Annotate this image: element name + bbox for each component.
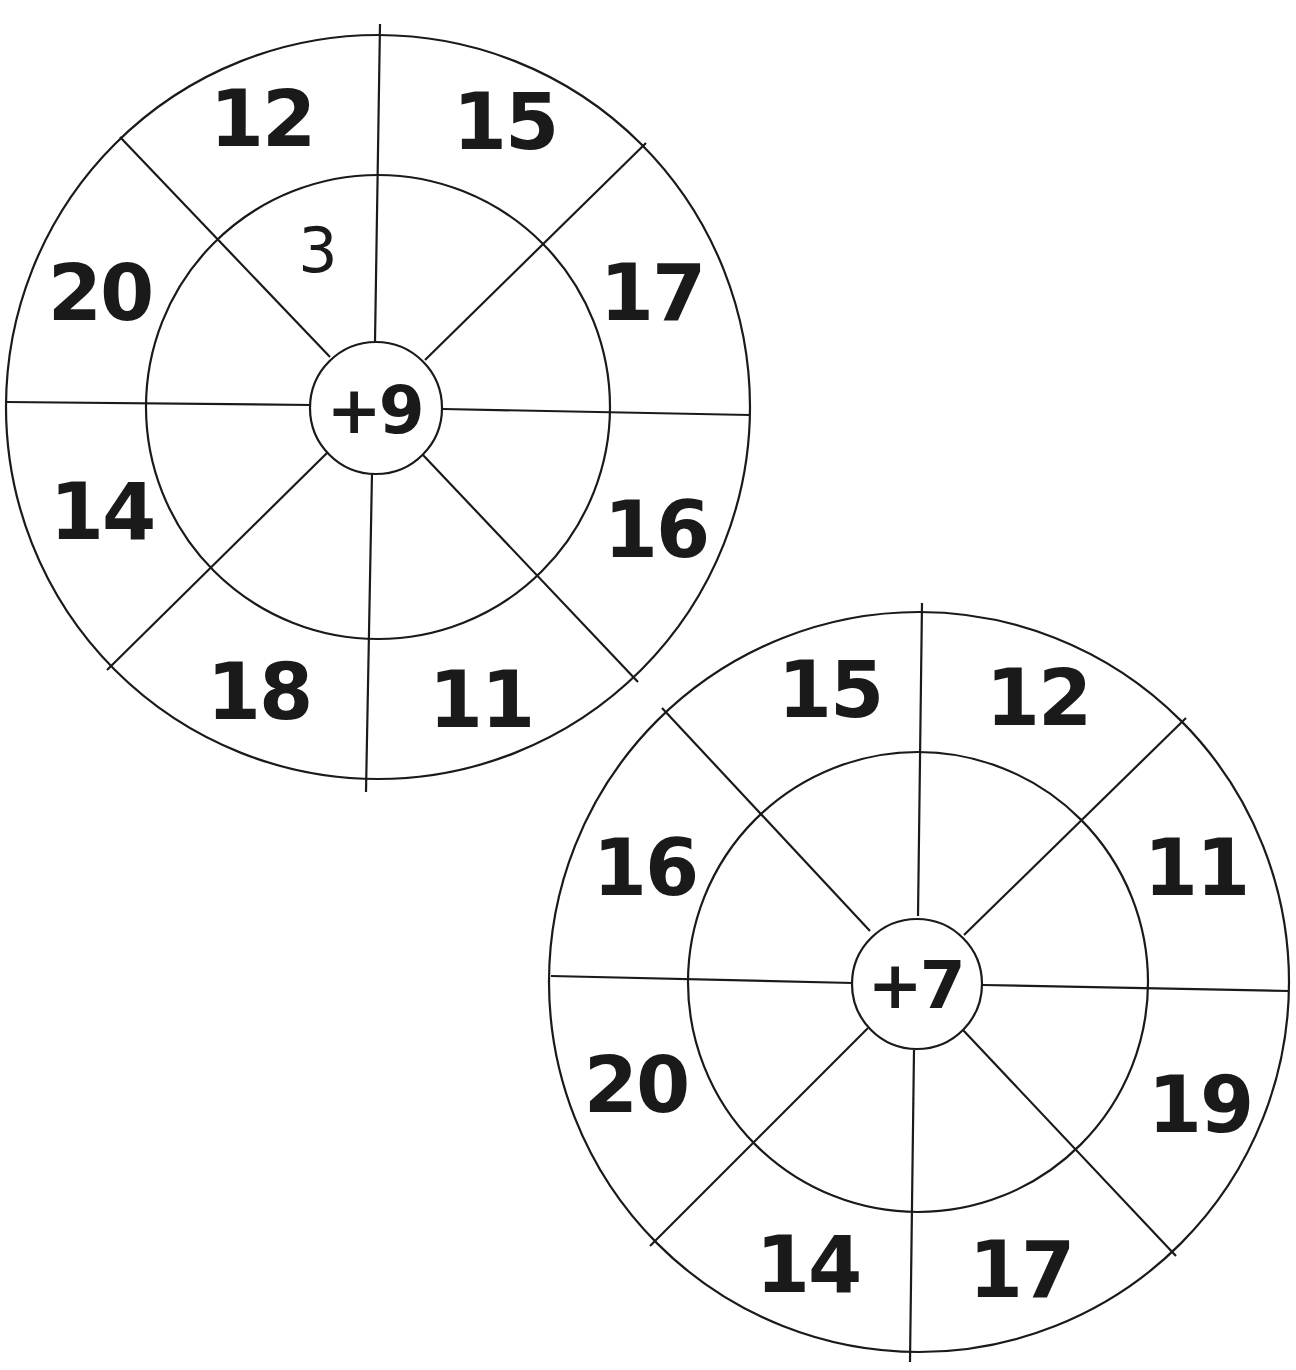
wheel-2-spoke-right bbox=[983, 985, 1289, 991]
wheel-2-outer-bottom-left: 14 bbox=[756, 1220, 861, 1310]
wheel-2-outer-left-lower: 20 bbox=[584, 1040, 689, 1130]
wheel-2-operation: +7 bbox=[867, 947, 962, 1024]
wheel-1-outer-right-upper: 17 bbox=[600, 248, 705, 338]
wheel-1-outer-bottom-left: 18 bbox=[207, 647, 312, 737]
wheel-1-operation: +9 bbox=[326, 372, 421, 449]
wheel-1-outer-top-right: 15 bbox=[453, 77, 558, 167]
wheel-1-spoke-top bbox=[375, 24, 380, 342]
wheel-1-outer-right-lower: 16 bbox=[604, 485, 709, 575]
wheel-2-outer-top-left: 15 bbox=[778, 645, 883, 735]
worksheet-canvas: +9 12 15 17 16 11 18 14 20 3 +7 15 12 11 bbox=[0, 0, 1296, 1370]
addition-wheel-2: +7 15 12 11 19 17 14 20 16 bbox=[549, 603, 1289, 1362]
wheel-2-spoke-top bbox=[918, 603, 922, 916]
wheel-1-answer-top-left[interactable]: 3 bbox=[298, 214, 337, 287]
addition-wheel-1: +9 12 15 17 16 11 18 14 20 3 bbox=[6, 24, 750, 792]
wheel-1-outer-left-upper: 20 bbox=[48, 248, 153, 338]
wheel-2-outer-top-right: 12 bbox=[986, 653, 1091, 743]
wheel-1-spoke-right bbox=[443, 409, 750, 415]
wheel-1-outer-bottom-right: 11 bbox=[429, 655, 534, 745]
wheel-2-outer-bottom-right: 17 bbox=[969, 1225, 1074, 1315]
wheel-2-spoke-bottom bbox=[910, 1050, 914, 1362]
wheel-2-outer-right-lower: 19 bbox=[1148, 1060, 1253, 1150]
wheel-2-outer-right-upper: 11 bbox=[1144, 823, 1249, 913]
wheel-2-spoke-left bbox=[551, 976, 853, 983]
wheel-1-outer-top-left: 12 bbox=[210, 74, 315, 164]
wheel-1-spoke-left bbox=[6, 402, 312, 405]
wheel-1-spoke-bottom bbox=[366, 473, 372, 792]
wheel-2-outer-left-upper: 16 bbox=[593, 823, 698, 913]
wheel-2-spoke-bottom-right bbox=[963, 1030, 1176, 1256]
wheel-1-outer-left-lower: 14 bbox=[50, 467, 155, 557]
